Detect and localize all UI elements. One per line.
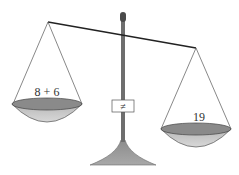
scale-base (90, 140, 156, 165)
scale-post (121, 18, 125, 142)
left-pan: 8 + 6 (12, 22, 82, 122)
balance-scale-diagram: 8 + 6 19 ≠ (0, 0, 239, 175)
left-pan-label: 8 + 6 (35, 85, 60, 99)
right-pan: 19 (161, 48, 231, 147)
post-knob (120, 12, 126, 22)
not-equal-badge: ≠ (112, 100, 134, 112)
not-equal-icon: ≠ (120, 101, 126, 112)
right-pan-label: 19 (193, 110, 205, 124)
